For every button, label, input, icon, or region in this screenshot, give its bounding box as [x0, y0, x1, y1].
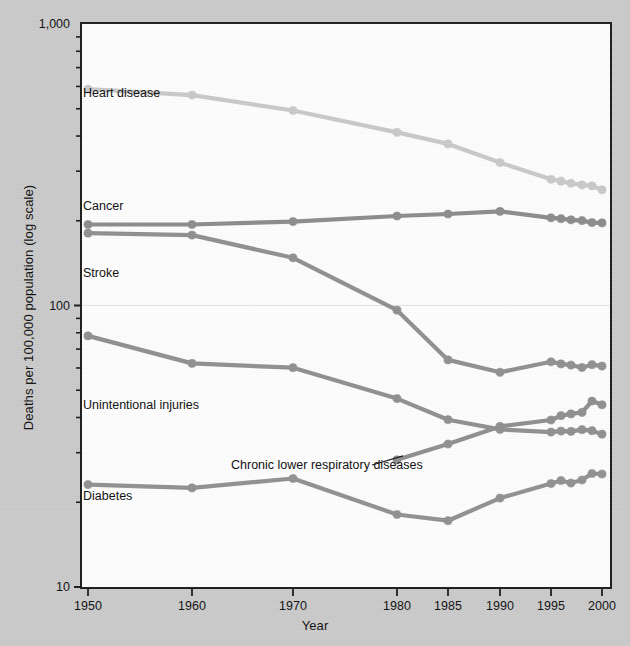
data-point-marker — [289, 364, 297, 372]
series-label-diabetes: Diabetes — [83, 489, 132, 503]
data-point-marker — [567, 361, 575, 369]
data-point-marker — [567, 479, 575, 487]
y-tick-label: 1,000 — [10, 17, 70, 31]
series-heart-disease — [84, 85, 606, 194]
x-tick-label: 1995 — [537, 599, 565, 613]
data-point-marker — [496, 494, 504, 502]
x-tick-label: 1990 — [486, 599, 514, 613]
data-point-marker — [84, 332, 92, 340]
data-point-marker — [393, 212, 401, 220]
data-point-marker — [84, 481, 92, 489]
data-point-marker — [547, 214, 555, 222]
data-point-marker — [557, 427, 565, 435]
series-label-stroke: Stroke — [83, 266, 119, 280]
data-point-marker — [84, 220, 92, 228]
series-label-cancer: Cancer — [83, 199, 123, 213]
x-tick-label: 1985 — [434, 599, 462, 613]
data-point-marker — [444, 356, 452, 364]
data-point-marker — [444, 440, 452, 448]
x-tick-label: 1960 — [178, 599, 206, 613]
data-point-marker — [393, 128, 401, 136]
data-point-marker — [84, 229, 92, 237]
data-point-marker — [547, 358, 555, 366]
data-point-marker — [598, 470, 606, 478]
data-point-marker — [588, 219, 596, 227]
x-axis-ticks — [88, 587, 602, 596]
data-point-marker — [444, 140, 452, 148]
x-tick-label: 2000 — [588, 599, 616, 613]
data-point-marker — [598, 219, 606, 227]
series-label-heart-disease: Heart disease — [83, 86, 160, 100]
data-point-marker — [496, 422, 504, 430]
data-point-marker — [557, 215, 565, 223]
data-point-marker — [496, 207, 504, 215]
data-point-marker — [547, 428, 555, 436]
y-tick-label: 10 — [10, 580, 70, 594]
data-point-marker — [444, 416, 452, 424]
data-point-marker — [289, 218, 297, 226]
data-point-marker — [393, 306, 401, 314]
data-point-marker — [578, 217, 586, 225]
x-axis-title: Year — [0, 618, 630, 633]
data-point-marker — [557, 177, 565, 185]
data-point-marker — [588, 182, 596, 190]
data-point-marker — [588, 397, 596, 405]
x-tick-label: 1970 — [279, 599, 307, 613]
data-point-marker — [567, 216, 575, 224]
data-point-marker — [496, 159, 504, 167]
series-diabetes — [84, 469, 606, 524]
data-point-marker — [289, 106, 297, 114]
data-point-marker — [578, 408, 586, 416]
data-point-marker — [578, 426, 586, 434]
data-point-marker — [557, 412, 565, 420]
data-point-marker — [578, 476, 586, 484]
data-point-marker — [393, 510, 401, 518]
data-point-marker — [496, 368, 504, 376]
data-point-marker — [588, 361, 596, 369]
data-point-marker — [557, 360, 565, 368]
data-point-marker — [188, 484, 196, 492]
data-point-marker — [547, 175, 555, 183]
data-point-marker — [578, 181, 586, 189]
data-point-marker — [557, 476, 565, 484]
data-point-marker — [598, 430, 606, 438]
x-tick-label: 1950 — [74, 599, 102, 613]
data-point-marker — [289, 474, 297, 482]
data-point-marker — [444, 210, 452, 218]
data-point-marker — [578, 363, 586, 371]
data-point-marker — [567, 427, 575, 435]
data-point-marker — [567, 179, 575, 187]
data-point-marker — [588, 469, 596, 477]
series-label-unintentional-injuries: Unintentional injuries — [83, 398, 199, 412]
y-axis-ticks — [74, 37, 82, 587]
data-point-marker — [393, 395, 401, 403]
series-cancer — [84, 207, 606, 228]
data-point-marker — [547, 416, 555, 424]
data-point-marker — [567, 410, 575, 418]
data-point-marker — [598, 186, 606, 194]
data-point-marker — [188, 231, 196, 239]
data-point-marker — [188, 91, 196, 99]
data-point-marker — [588, 427, 596, 435]
series-label-chronic-lower-respiratory-diseases: Chronic lower respiratory diseases — [231, 458, 423, 472]
data-point-marker — [188, 359, 196, 367]
data-point-marker — [598, 401, 606, 409]
chart-page: Deaths per 100,000 population (log scale… — [0, 0, 630, 646]
data-point-marker — [444, 517, 452, 525]
data-point-marker — [289, 254, 297, 262]
x-tick-label: 1980 — [383, 599, 411, 613]
y-tick-label: 100 — [10, 299, 70, 313]
data-point-marker — [598, 362, 606, 370]
data-point-marker — [188, 220, 196, 228]
data-point-marker — [547, 480, 555, 488]
